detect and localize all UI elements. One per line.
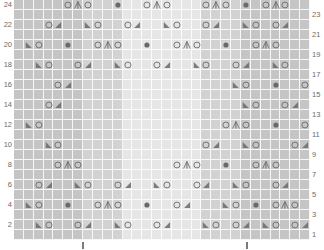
chart-cell[interactable]: [123, 50, 133, 60]
chart-cell[interactable]: [14, 110, 24, 120]
chart-cell[interactable]: [271, 220, 281, 230]
chart-cell[interactable]: [73, 90, 83, 100]
chart-cell[interactable]: [14, 30, 24, 40]
chart-cell[interactable]: [162, 10, 172, 20]
chart-cell[interactable]: [241, 0, 251, 10]
chart-cell[interactable]: [182, 140, 192, 150]
chart-cell[interactable]: [152, 110, 162, 120]
chart-cell[interactable]: [280, 140, 290, 150]
chart-cell[interactable]: [211, 10, 221, 20]
chart-cell[interactable]: [221, 60, 231, 70]
chart-cell[interactable]: [123, 100, 133, 110]
chart-cell[interactable]: [241, 70, 251, 80]
chart-cell[interactable]: [162, 80, 172, 90]
chart-cell[interactable]: [201, 10, 211, 20]
chart-cell[interactable]: [44, 0, 54, 10]
chart-cell[interactable]: [192, 190, 202, 200]
chart-cell[interactable]: [34, 200, 44, 210]
chart-cell[interactable]: [152, 90, 162, 100]
chart-cell[interactable]: [113, 160, 123, 170]
chart-cell[interactable]: [63, 20, 73, 30]
chart-cell[interactable]: [192, 40, 202, 50]
chart-cell[interactable]: [211, 180, 221, 190]
chart-cell[interactable]: [261, 80, 271, 90]
chart-cell[interactable]: [241, 180, 251, 190]
chart-cell[interactable]: [231, 200, 241, 210]
chart-cell[interactable]: [24, 100, 34, 110]
chart-cell[interactable]: [73, 140, 83, 150]
chart-cell[interactable]: [231, 110, 241, 120]
chart-cell[interactable]: [280, 180, 290, 190]
chart-cell[interactable]: [280, 160, 290, 170]
chart-cell[interactable]: [221, 140, 231, 150]
chart-cell[interactable]: [44, 160, 54, 170]
chart-cell[interactable]: [34, 190, 44, 200]
chart-cell[interactable]: [24, 80, 34, 90]
chart-cell[interactable]: [182, 180, 192, 190]
chart-cell[interactable]: [201, 30, 211, 40]
chart-cell[interactable]: [271, 50, 281, 60]
chart-cell[interactable]: [221, 100, 231, 110]
chart-cell[interactable]: [221, 150, 231, 160]
chart-cell[interactable]: [271, 40, 281, 50]
chart-cell[interactable]: [132, 50, 142, 60]
chart-cell[interactable]: [231, 10, 241, 20]
chart-cell[interactable]: [182, 230, 192, 240]
chart-cell[interactable]: [103, 210, 113, 220]
chart-cell[interactable]: [103, 200, 113, 210]
chart-cell[interactable]: [83, 210, 93, 220]
chart-cell[interactable]: [53, 170, 63, 180]
chart-cell[interactable]: [231, 190, 241, 200]
chart-cell[interactable]: [83, 110, 93, 120]
chart-cell[interactable]: [44, 120, 54, 130]
chart-cell[interactable]: [24, 160, 34, 170]
chart-cell[interactable]: [241, 130, 251, 140]
chart-cell[interactable]: [44, 100, 54, 110]
chart-cell[interactable]: [241, 190, 251, 200]
chart-cell[interactable]: [24, 220, 34, 230]
chart-cell[interactable]: [113, 230, 123, 240]
chart-cell[interactable]: [132, 230, 142, 240]
chart-cell[interactable]: [123, 90, 133, 100]
chart-cell[interactable]: [93, 130, 103, 140]
chart-cell[interactable]: [24, 210, 34, 220]
chart-cell[interactable]: [280, 120, 290, 130]
chart-cell[interactable]: [221, 50, 231, 60]
chart-cell[interactable]: [221, 170, 231, 180]
chart-cell[interactable]: [73, 150, 83, 160]
chart-cell[interactable]: [132, 180, 142, 190]
chart-cell[interactable]: [34, 170, 44, 180]
chart-cell[interactable]: [251, 180, 261, 190]
chart-cell[interactable]: [231, 140, 241, 150]
chart-cell[interactable]: [271, 210, 281, 220]
chart-cell[interactable]: [44, 70, 54, 80]
chart-cell[interactable]: [182, 130, 192, 140]
chart-cell[interactable]: [172, 60, 182, 70]
chart-cell[interactable]: [251, 0, 261, 10]
chart-cell[interactable]: [93, 210, 103, 220]
chart-cell[interactable]: [172, 120, 182, 130]
chart-cell[interactable]: [123, 120, 133, 130]
chart-cell[interactable]: [221, 20, 231, 30]
chart-cell[interactable]: [142, 20, 152, 30]
chart-cell[interactable]: [34, 230, 44, 240]
chart-cell[interactable]: [162, 130, 172, 140]
chart-cell[interactable]: [14, 100, 24, 110]
chart-cell[interactable]: [142, 150, 152, 160]
chart-cell[interactable]: [211, 120, 221, 130]
chart-cell[interactable]: [93, 90, 103, 100]
chart-cell[interactable]: [300, 40, 310, 50]
chart-cell[interactable]: [280, 0, 290, 10]
chart-cell[interactable]: [162, 20, 172, 30]
chart-cell[interactable]: [221, 40, 231, 50]
chart-cell[interactable]: [53, 70, 63, 80]
chart-cell[interactable]: [182, 170, 192, 180]
chart-cell[interactable]: [300, 0, 310, 10]
chart-cell[interactable]: [44, 40, 54, 50]
chart-cell[interactable]: [152, 50, 162, 60]
chart-cell[interactable]: [211, 140, 221, 150]
chart-cell[interactable]: [231, 160, 241, 170]
chart-cell[interactable]: [93, 170, 103, 180]
chart-cell[interactable]: [113, 110, 123, 120]
chart-cell[interactable]: [201, 50, 211, 60]
